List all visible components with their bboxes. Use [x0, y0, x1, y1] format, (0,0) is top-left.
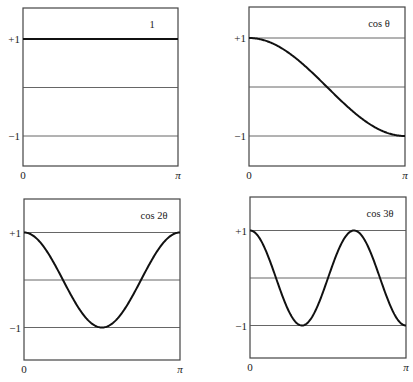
- function-label: cos 3θ: [367, 208, 394, 219]
- x-tick-pi: π: [403, 361, 409, 373]
- x-tick-zero: 0: [21, 363, 27, 375]
- x-tick-zero: 0: [247, 361, 253, 373]
- panel-3: +1−10πcos 2θ: [9, 199, 183, 375]
- y-tick-plus-one: +1: [9, 227, 21, 239]
- y-tick-plus-one: +1: [235, 225, 247, 237]
- y-tick-minus-one: −1: [9, 322, 21, 334]
- panel-2: +1−10πcos θ: [234, 7, 408, 181]
- y-tick-minus-one: −1: [234, 130, 246, 142]
- function-label: cos θ: [368, 18, 390, 29]
- function-label: 1: [149, 19, 154, 30]
- panel-1: +1−10π1: [8, 8, 181, 181]
- panel-4: +1−10πcos 3θ: [235, 197, 409, 373]
- y-tick-minus-one: −1: [8, 130, 20, 142]
- x-tick-zero: 0: [20, 169, 26, 181]
- y-tick-plus-one: +1: [234, 32, 246, 44]
- x-tick-zero: 0: [246, 169, 252, 181]
- x-tick-pi: π: [177, 363, 183, 375]
- x-tick-pi: π: [175, 169, 181, 181]
- function-label: cos 2θ: [141, 210, 168, 221]
- x-tick-pi: π: [402, 169, 408, 181]
- chart-grid: +1−10π1+1−10πcos θ+1−10πcos 2θ+1−10πcos …: [0, 0, 413, 382]
- plot-frame: [24, 199, 180, 360]
- plot-frame: [23, 8, 178, 166]
- y-tick-minus-one: −1: [235, 320, 247, 332]
- y-tick-plus-one: +1: [8, 33, 20, 45]
